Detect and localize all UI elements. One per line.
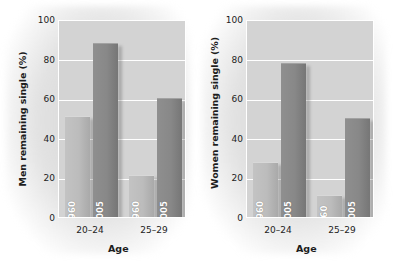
gridline [247, 60, 373, 61]
bar-shadow [182, 101, 186, 218]
bar-value-label: 2005 [159, 201, 169, 218]
y-axis-tick-label: 60 [31, 94, 55, 104]
plot-area-women: 19602005'602005 [246, 20, 374, 218]
chart-panel-women: Women remaining single (%) 19602005'6020… [196, 0, 392, 263]
y-axis-tick-label: 20 [219, 173, 243, 183]
bar-men-20-24-2005: 2005 [93, 43, 118, 217]
bar-women-20-24-2005: 2005 [281, 63, 306, 217]
bar-shadow [306, 66, 310, 218]
bar-body [93, 43, 118, 217]
y-axis-tick-label: 60 [219, 94, 243, 104]
bar-shadow [370, 121, 374, 218]
chart-panel-men: Men remaining single (%) 196020051960200… [0, 0, 196, 263]
bar-value-label: 2005 [347, 201, 357, 218]
bar-value-label: 1960 [255, 201, 265, 218]
bar-men-20-24-1960: 1960 [65, 116, 90, 217]
gridline [59, 60, 185, 61]
x-axis-tick-label: 20–24 [76, 225, 103, 235]
bar-women-25-29-2005: 2005 [345, 118, 370, 217]
bar-value-label: 2005 [283, 201, 293, 218]
plot-area-men: 1960200519602005 [58, 20, 186, 218]
bar-men-25-29-2005: 2005 [157, 98, 182, 217]
y-axis-tick-label: 80 [219, 55, 243, 65]
bar-value-label: 2005 [95, 201, 105, 218]
x-axis-title-men: Age [108, 243, 129, 254]
y-axis-title-men: Men remaining single (%) [17, 20, 31, 218]
x-axis-tick-label: 20–24 [264, 225, 291, 235]
x-axis-tick-label: 25–29 [140, 225, 167, 235]
bar-chart-figure: Men remaining single (%) 196020051960200… [0, 0, 393, 263]
gridline [247, 100, 373, 101]
y-axis-tick-label: 0 [219, 213, 243, 223]
y-axis-tick-label: 40 [31, 134, 55, 144]
y-axis-tick-label: 20 [31, 173, 55, 183]
bar-women-25-29-1960: '60 [317, 195, 342, 217]
bar-body [281, 63, 306, 217]
y-axis-tick-label: 80 [31, 55, 55, 65]
bar-value-label: 1960 [67, 201, 77, 218]
bar-value-label: 1960 [131, 201, 141, 218]
bar-women-20-24-1960: 1960 [253, 162, 278, 217]
y-axis-tick-label: 100 [219, 15, 243, 25]
y-axis-tick-label: 40 [219, 134, 243, 144]
bar-body [157, 98, 182, 217]
bar-men-25-29-1960: 1960 [129, 175, 154, 217]
x-axis-tick-label: 25–29 [328, 225, 355, 235]
y-axis-tick-label: 100 [31, 15, 55, 25]
y-axis-tick-label: 0 [31, 213, 55, 223]
bar-shadow [118, 46, 122, 218]
x-axis-title-women: Age [296, 243, 317, 254]
bar-value-label: '60 [319, 205, 329, 218]
